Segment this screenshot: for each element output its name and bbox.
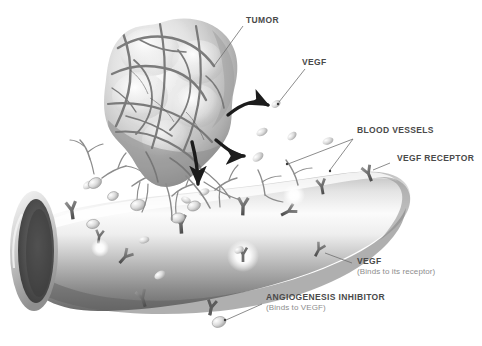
label-vegf-right: VEGF: [357, 257, 382, 266]
label-vegf-top: VEGF: [302, 58, 327, 67]
vegf-particle[interactable]: [255, 126, 269, 138]
vegf-particle[interactable]: [251, 150, 265, 164]
receptor-binding-flash: [283, 184, 305, 206]
label-vegf-receptor: VEGF RECEPTOR: [397, 154, 474, 163]
receptor-binding-flash: [227, 240, 259, 272]
angiogenesis-figure: TUMOR VEGF BLOOD VESSELS VEGF RECEPTOR V…: [0, 0, 482, 346]
receptor-binding-flash: [91, 239, 109, 257]
leader-line-vegf-top: [279, 69, 305, 102]
leader-line-vegf-receptor: [373, 163, 390, 170]
vegf-particle[interactable]: [322, 136, 335, 146]
sprouting-vessel[interactable]: [70, 140, 103, 174]
label-angiogenesis-inhibitor-note: (Binds to VEGF): [266, 304, 326, 312]
sprout-tip: [106, 190, 120, 202]
label-tumor: TUMOR: [246, 16, 279, 25]
vegf-signal-arrow: [228, 102, 268, 115]
label-blood-vessels: BLOOD VESSELS: [357, 126, 434, 135]
vessel-lumen-inner-shadow: [26, 209, 52, 297]
vegf-signal-arrow: [216, 140, 244, 156]
inhibitor-bound-vegf: [211, 315, 228, 330]
vegf-particle[interactable]: [286, 130, 298, 142]
illustration-canvas: [0, 0, 482, 346]
label-vegf-right-note: (Binds to its receptor): [357, 268, 435, 276]
label-angiogenesis-inhibitor: ANGIOGENESIS INHIBITOR: [266, 293, 385, 302]
